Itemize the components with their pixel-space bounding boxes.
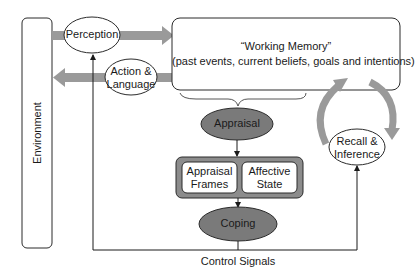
working-memory-box [172,18,400,90]
perception-label: Perception [64,28,120,41]
appraisal-frames-line2: Frames [182,178,237,191]
appraisal-label: Appraisal [201,117,273,130]
recall-inference-line1: Recall & [329,135,385,148]
appraisal-frames-label: Appraisal Frames [182,165,237,191]
recall-inference-label: Recall & Inference [329,135,385,161]
action-language-label: Action & Language [105,65,157,91]
working-memory-brace [180,93,306,106]
appraisal-frames-line1: Appraisal [182,165,237,178]
action-language-line2: Language [105,78,157,91]
affective-state-line2: State [242,178,297,191]
affective-state-label: Affective State [242,165,297,191]
environment-label: Environment [31,102,43,164]
recall-inference-line2: Inference [329,148,385,161]
working-memory-subtitle: (past events, current beliefs, goals and… [172,55,400,68]
affective-state-line1: Affective [242,165,297,178]
working-memory-title: “Working Memory” [172,40,400,53]
action-language-line1: Action & [105,65,157,78]
coping-label: Coping [199,217,277,230]
control-signals-label: Control Signals [188,255,288,268]
